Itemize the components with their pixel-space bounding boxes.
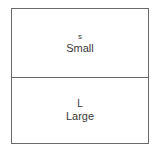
cell-small: s Small — [12, 9, 148, 77]
cell-large-code: L — [77, 98, 83, 109]
cell-large-label: Large — [66, 110, 94, 123]
cell-small-code: s — [78, 32, 82, 41]
size-diagram: s Small L Large — [11, 8, 149, 144]
cell-small-label: Small — [66, 42, 94, 55]
cell-large: L Large — [12, 78, 148, 143]
